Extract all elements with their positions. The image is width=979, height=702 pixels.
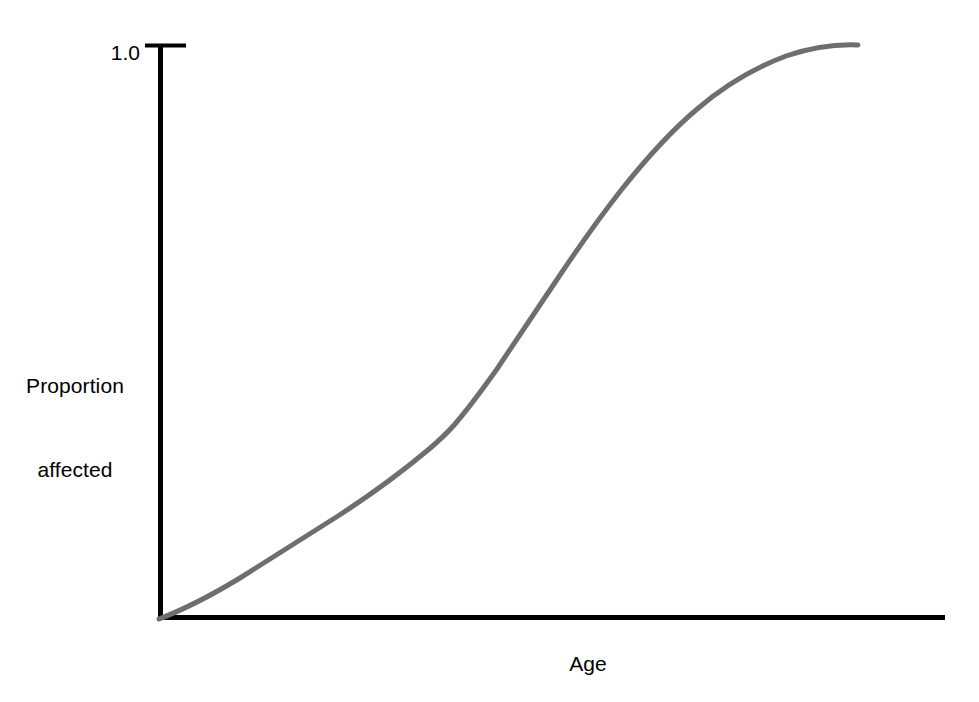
y-axis-tick-label-1.0: 1.0: [72, 41, 140, 65]
y-axis-label: Proportion affected: [0, 317, 150, 539]
x-axis-label: Age: [488, 650, 688, 678]
data-curve-proportion-affected: [159, 45, 858, 619]
y-axis-label-line-2: affected: [0, 456, 150, 484]
chart-figure: 1.0 Proportion affected Age: [0, 0, 979, 702]
y-axis-label-line-1: Proportion: [0, 372, 150, 400]
